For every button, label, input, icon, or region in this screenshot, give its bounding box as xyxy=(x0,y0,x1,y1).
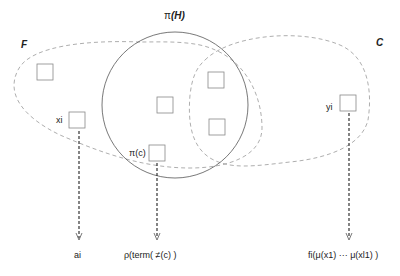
arrow-xi-to-ai xyxy=(76,131,82,240)
node-xi-label: xi xyxy=(56,116,63,125)
set-h-label-set: (H) xyxy=(171,10,185,21)
diagram-canvas: F π(H) C xi yi π(c) ai ρ(term( ≠(c) ) fi… xyxy=(0,0,400,276)
set-h-label-prefix: π xyxy=(164,10,171,21)
set-c-label: C xyxy=(376,38,383,48)
node-yi-label: yi xyxy=(326,103,333,112)
arrow-pic-to-rho xyxy=(154,163,160,240)
node-box-hc1 xyxy=(208,72,224,88)
node-box-f1 xyxy=(37,64,53,80)
node-box-xi xyxy=(69,112,85,128)
node-pic-label: π(c) xyxy=(129,149,146,158)
output-rho-label: ρ(term( ≠(c) ) xyxy=(124,251,177,260)
set-f-label: F xyxy=(21,40,27,50)
output-fi-label: fi(μ(x1) ··· μ(xl1) ) xyxy=(308,251,378,260)
node-box-yi xyxy=(340,95,356,111)
node-box-pic xyxy=(149,145,165,161)
arrow-yi-to-fi xyxy=(346,113,352,240)
set-h-circle xyxy=(102,32,248,178)
output-ai-label: ai xyxy=(74,251,81,260)
diagram-shapes xyxy=(0,0,400,276)
set-h-label: π(H) xyxy=(164,11,185,21)
node-box-hc2 xyxy=(209,119,225,135)
node-box-h1 xyxy=(157,97,173,113)
